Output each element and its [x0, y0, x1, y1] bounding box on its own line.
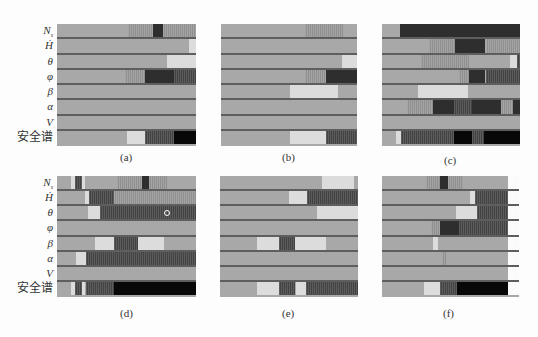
segment-darkstripe	[517, 55, 520, 68]
segment-stripe	[459, 70, 469, 83]
segment-light	[433, 237, 438, 250]
segment-light	[322, 176, 354, 189]
row-0	[221, 24, 357, 37]
row-label: Ns	[43, 176, 53, 191]
row-5	[382, 100, 520, 113]
row-5	[382, 252, 519, 265]
row-1	[221, 39, 357, 52]
row-6	[382, 116, 520, 129]
segment-darkstripe	[306, 282, 358, 295]
segment-dark	[142, 176, 149, 189]
segment-darkstripe	[459, 221, 508, 234]
row-0	[382, 176, 519, 189]
segment-darkstripe	[279, 237, 294, 250]
row-label: Ḣ	[45, 191, 53, 206]
row-3	[382, 70, 520, 83]
row-1	[382, 191, 519, 204]
segment-stripe	[448, 176, 463, 189]
segment-black	[457, 282, 508, 295]
segment-darkstripe	[326, 131, 357, 144]
segment-white	[508, 191, 519, 204]
panel-c	[382, 24, 520, 146]
row-3	[57, 70, 196, 83]
caption-b: (b)	[282, 151, 295, 163]
segment-white	[508, 206, 519, 219]
row-2	[382, 206, 519, 219]
row-label: β	[48, 237, 53, 252]
row-label: V	[46, 267, 53, 282]
segment-darkstripe	[472, 131, 484, 144]
row-2	[57, 206, 196, 219]
segment-stripe	[407, 100, 433, 113]
segment-darkstripe	[114, 237, 138, 250]
row-label: θ	[48, 206, 53, 221]
segment-stripe	[426, 176, 440, 189]
segment-dark	[440, 221, 459, 234]
segment-dark	[145, 70, 174, 83]
segment-darkstripe	[475, 191, 508, 204]
row-7	[57, 282, 196, 295]
segment-light	[82, 282, 85, 295]
row-6	[57, 267, 196, 280]
segment-white	[508, 267, 519, 280]
segment-light	[127, 131, 145, 144]
panel-e	[220, 176, 358, 297]
segment-dark	[433, 100, 454, 113]
segment-darkstripe	[89, 191, 114, 204]
segment-light	[88, 206, 101, 219]
segment-light	[317, 206, 358, 219]
caption-d: (d)	[120, 307, 133, 319]
segment-darkstripe	[307, 191, 358, 204]
segment-light	[295, 237, 327, 250]
row-0	[57, 176, 196, 189]
row-6	[57, 116, 196, 129]
segment-stripe	[114, 191, 196, 204]
segment-black	[484, 131, 520, 144]
panel-b	[221, 24, 357, 146]
segment-light	[456, 206, 477, 219]
row-1	[57, 191, 196, 204]
segment-light	[257, 237, 279, 250]
segment-darkstripe	[477, 206, 509, 219]
segment-stripe	[305, 24, 343, 37]
segment-light	[167, 55, 196, 68]
row-1	[220, 191, 358, 204]
segment-light	[296, 282, 306, 295]
segment-dark	[400, 24, 520, 37]
row-label: Ns	[43, 24, 53, 39]
row-label: 安全谱	[17, 282, 53, 297]
row-5	[221, 100, 357, 113]
panel-f	[382, 176, 519, 297]
segment-light	[424, 282, 439, 295]
row-2	[221, 55, 357, 68]
segment-darkstripe	[100, 206, 196, 219]
row-7	[221, 131, 357, 144]
segment-black	[174, 131, 196, 144]
segment-stripe	[125, 70, 144, 83]
row-label: α	[47, 252, 53, 267]
marker-circle	[164, 210, 170, 216]
segment-light	[95, 237, 114, 250]
segment-darkstripe	[75, 176, 82, 189]
segment-dark	[469, 70, 486, 83]
row-label: V	[46, 116, 53, 131]
row-4	[382, 237, 519, 250]
row-7	[220, 282, 358, 295]
row-label: β	[48, 85, 53, 100]
row-3	[57, 221, 196, 234]
row-5	[57, 100, 196, 113]
row-label: φ	[47, 221, 53, 236]
segment-stripe	[163, 24, 196, 37]
segment-darkstripe	[440, 282, 458, 295]
segment-stripe	[431, 221, 439, 234]
row-label: Ḣ	[45, 39, 53, 54]
caption-e: (e)	[282, 307, 294, 319]
row-7	[382, 282, 519, 295]
row-label: φ	[47, 70, 53, 85]
row-0	[382, 24, 520, 37]
row-6	[220, 267, 358, 280]
row-4	[221, 85, 357, 98]
segment-darkstripe	[401, 131, 453, 144]
segment-stripe	[117, 176, 142, 189]
row-4	[220, 237, 358, 250]
